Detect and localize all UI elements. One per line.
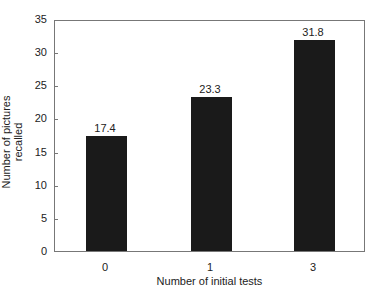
y-tick-mark [54,153,58,154]
y-tick-mark [54,119,58,120]
y-tick-35: 35 [17,13,47,25]
x-axis-label: Number of initial tests [54,275,365,287]
bar-1 [191,97,232,251]
x-tick-1: 1 [195,261,225,273]
y-tick-mark [54,86,58,87]
y-tick-30: 30 [17,46,47,58]
y-axis-label: Number of pictures recalled [0,82,24,202]
x-tick-3: 3 [298,261,328,273]
plot-area [54,20,365,252]
y-tick-5: 5 [17,212,47,224]
x-tick-0: 0 [90,261,120,273]
y-tick-mark [54,186,58,187]
value-label-3: 31.8 [283,26,343,38]
bar-0 [86,136,127,251]
value-label-0: 17.4 [75,122,135,134]
bar-3 [294,40,335,251]
y-tick-mark [54,219,58,220]
y-tick-0: 0 [17,245,47,257]
value-label-1: 23.3 [180,83,240,95]
y-tick-mark [54,53,58,54]
